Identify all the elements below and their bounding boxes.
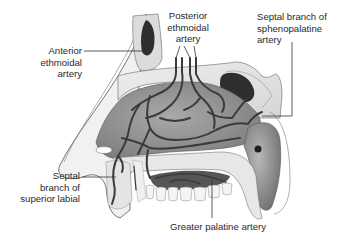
label-line: Septal branch of xyxy=(257,11,347,23)
label-posterior-ethmoidal-artery: Posterior ethmoidal artery xyxy=(158,10,218,45)
label-line: artery xyxy=(158,33,218,45)
label-line: ethmoidal xyxy=(158,22,218,34)
label-line: Posterior xyxy=(158,10,218,22)
label-anterior-ethmoidal-artery: Anterior ethmoidal artery xyxy=(22,45,82,80)
leader-posterior-ethmoidal-1 xyxy=(176,46,180,58)
label-line: Septal xyxy=(4,170,80,182)
label-line: superior labial xyxy=(4,193,80,205)
label-line: Greater palatine artery xyxy=(158,221,278,233)
label-greater-palatine-artery: Greater palatine artery xyxy=(158,221,278,233)
label-line: sphenopalatine xyxy=(257,23,347,35)
label-line: artery xyxy=(257,34,347,46)
label-line: artery xyxy=(22,68,82,80)
leader-posterior-ethmoidal-3 xyxy=(194,46,196,58)
nasal-septum-diagram: Anterior ethmoidal artery Posterior ethm… xyxy=(0,0,348,238)
label-line: ethmoidal xyxy=(22,57,82,69)
label-line: Anterior xyxy=(22,45,82,57)
leader-posterior-ethmoidal-2 xyxy=(184,46,190,58)
nostril xyxy=(96,147,112,154)
label-sphenopalatine-septal-branch: Septal branch of sphenopalatine artery xyxy=(257,11,347,46)
label-line: branch of xyxy=(4,182,80,194)
label-superior-labial-septal-branch: Septal branch of superior labial xyxy=(4,170,80,205)
